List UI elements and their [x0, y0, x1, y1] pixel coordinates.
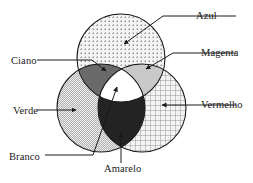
label-amarelo: Amarelo: [104, 164, 141, 175]
label-branco: Branco: [9, 152, 40, 163]
label-azul: Azul: [196, 11, 217, 22]
color-venn-figure: Azul Magenta Vermelho Ciano Verde Branco…: [0, 0, 253, 183]
label-ciano: Ciano: [11, 56, 37, 67]
label-vermelho: Vermelho: [201, 100, 243, 111]
label-magenta: Magenta: [201, 48, 238, 59]
label-verde: Verde: [13, 106, 38, 117]
